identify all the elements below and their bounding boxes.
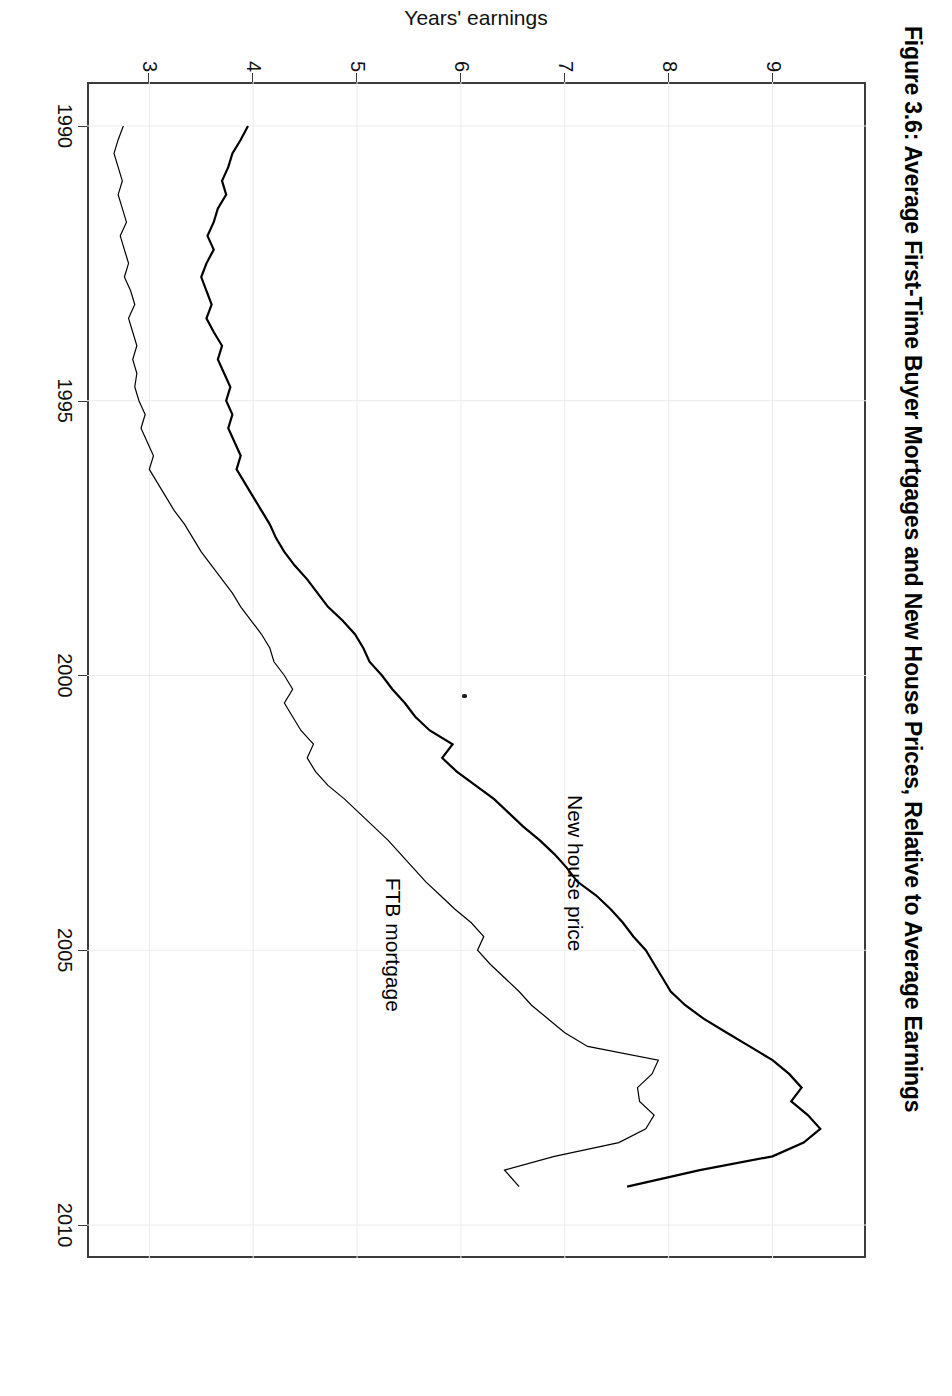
- figure: Figure 3.6: Average First-Time Buyer Mor…: [0, 0, 952, 1396]
- series-line-1: [114, 126, 658, 1187]
- series-line-0: [201, 126, 820, 1187]
- series-annotation: New house price: [563, 795, 587, 951]
- x-tick-label: 1995: [53, 378, 76, 423]
- y-tick-mark: [460, 73, 461, 82]
- y-tick-label: 8: [657, 61, 680, 72]
- x-tick-label: 2000: [53, 653, 76, 698]
- y-tick-mark: [668, 73, 669, 82]
- y-tick-label: 6: [449, 61, 472, 72]
- x-tick-mark: [78, 950, 87, 951]
- x-tick-mark: [78, 1225, 87, 1226]
- y-tick-mark: [148, 73, 149, 82]
- chart-svg: [87, 82, 866, 1258]
- plot-area: 19901995200020052010 3456789 New house p…: [87, 82, 866, 1258]
- series-lines: [114, 126, 820, 1187]
- x-tick-mark: [78, 401, 87, 402]
- x-tick-label: 1990: [53, 104, 76, 149]
- y-tick-mark: [252, 73, 253, 82]
- figure-rotation-wrapper: Figure 3.6: Average First-Time Buyer Mor…: [0, 0, 952, 1396]
- y-tick-mark: [564, 73, 565, 82]
- gridlines: [87, 82, 866, 1258]
- y-axis-label-text: Years' earnings: [405, 6, 548, 30]
- y-tick-label: 5: [346, 61, 369, 72]
- y-tick-label: 4: [242, 61, 265, 72]
- y-tick-label: 7: [553, 61, 576, 72]
- print-speck: [462, 694, 467, 698]
- chart-title: Figure 3.6: Average First-Time Buyer Mor…: [899, 26, 926, 1112]
- y-tick-label: 3: [138, 61, 161, 72]
- x-tick-mark: [78, 126, 87, 127]
- y-axis-label: Years' earnings: [87, 0, 866, 36]
- y-tick-mark: [356, 73, 357, 82]
- y-tick-label: 9: [761, 61, 784, 72]
- series-annotation: FTB mortgage: [381, 878, 405, 1012]
- x-tick-label: 2010: [53, 1203, 76, 1248]
- y-tick-mark: [772, 73, 773, 82]
- x-tick-mark: [78, 675, 87, 676]
- x-tick-label: 2005: [53, 928, 76, 973]
